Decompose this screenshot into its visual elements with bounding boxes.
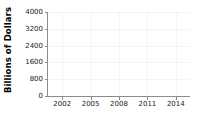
- y-axis-tick: [45, 96, 48, 97]
- gridline-vertical: [147, 12, 148, 96]
- y-axis-tick-label: 1600: [25, 58, 43, 66]
- y-axis-tick-label: 3200: [25, 25, 43, 33]
- gridline-vertical: [91, 12, 92, 96]
- gridline-vertical: [176, 12, 177, 96]
- x-axis-tick-label: 2002: [53, 100, 71, 108]
- y-axis-tick: [45, 79, 48, 80]
- chart-figure: Billions of Dollars 08001600240032004000…: [0, 0, 200, 117]
- x-axis-tick-label: 2008: [110, 100, 128, 108]
- y-axis-title-text: Billions of Dollars: [3, 7, 13, 93]
- gridline-vertical: [119, 12, 120, 96]
- y-axis-tick: [45, 12, 48, 13]
- y-axis-tick: [45, 46, 48, 47]
- x-axis-tick-label: 2011: [138, 100, 156, 108]
- plot-area: 0800160024003200400020022005200820112014: [47, 12, 190, 97]
- y-axis-tick: [45, 62, 48, 63]
- gridline-vertical: [62, 12, 63, 96]
- y-axis-tick: [45, 29, 48, 30]
- x-axis-tick-label: 2005: [82, 100, 100, 108]
- y-axis-tick-label: 2400: [25, 42, 43, 50]
- y-axis-tick-label: 4000: [25, 8, 43, 16]
- y-axis-tick-label: 800: [30, 75, 43, 83]
- x-axis-tick-label: 2014: [167, 100, 185, 108]
- y-axis-tick-label: 0: [39, 92, 43, 100]
- y-axis-title: Billions of Dollars: [0, 0, 16, 100]
